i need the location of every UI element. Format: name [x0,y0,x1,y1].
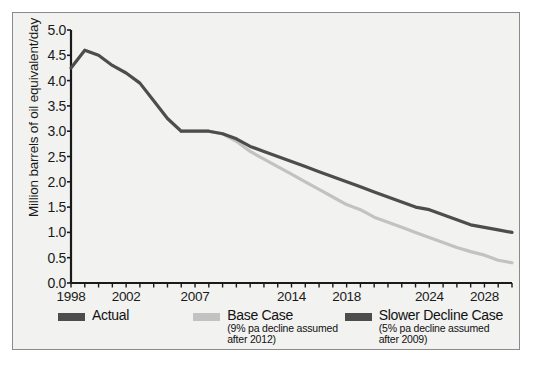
series-line-slower-decline-case [181,131,512,232]
legend-text: Actual [92,308,129,323]
legend-swatch [58,313,85,321]
chart-legend: ActualBase Case(9% pa decline assumedaft… [58,308,516,346]
legend-item: Slower Decline Case(5% pa decline assume… [345,308,516,346]
legend-label: Actual [92,308,129,323]
legend-swatch [345,313,372,321]
legend-label: Base Case [227,308,338,323]
legend-sublabel: (5% pa decline assumedafter 2009) [379,323,503,346]
series-line-actual [71,50,181,131]
legend-item: Base Case(9% pa decline assumedafter 201… [193,308,344,346]
legend-item: Actual [58,308,193,346]
legend-sublabel: (9% pa decline assumedafter 2012) [227,323,338,346]
legend-swatch [193,313,220,321]
legend-text: Slower Decline Case(5% pa decline assume… [379,308,503,346]
legend-text: Base Case(9% pa decline assumedafter 201… [227,308,338,346]
series-line-base-case [181,131,512,263]
legend-label: Slower Decline Case [379,308,503,323]
